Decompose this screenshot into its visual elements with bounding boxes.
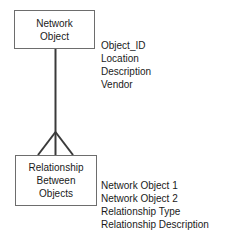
crows-foot-right-leg (56, 132, 74, 155)
attribute-list-network-object: Object_ID Location Description Vendor (101, 39, 151, 91)
entity-title-line: Objects (39, 187, 73, 200)
attribute-item: Network Object 2 (101, 192, 209, 205)
entity-box-network-object[interactable]: Network Object (14, 10, 95, 49)
attribute-list-relationship-between-objects: Network Object 1 Network Object 2 Relati… (101, 179, 209, 231)
attribute-item: Object_ID (101, 39, 151, 52)
attribute-item: Location (101, 52, 151, 65)
entity-title-line: Network (36, 17, 73, 30)
entity-box-relationship-between-objects[interactable]: Relationship Between Objects (15, 155, 97, 206)
attribute-item: Relationship Description (101, 218, 209, 231)
attribute-item: Network Object 1 (101, 179, 209, 192)
er-diagram-canvas: Network Object Object_ID Location Descri… (0, 0, 229, 238)
crows-foot-left-leg (38, 132, 56, 155)
attribute-item: Relationship Type (101, 205, 209, 218)
attribute-item: Vendor (101, 78, 151, 91)
attribute-item: Description (101, 65, 151, 78)
entity-title-line: Between (37, 174, 76, 187)
entity-title-line: Object (40, 30, 69, 43)
entity-title-line: Relationship (28, 161, 83, 174)
